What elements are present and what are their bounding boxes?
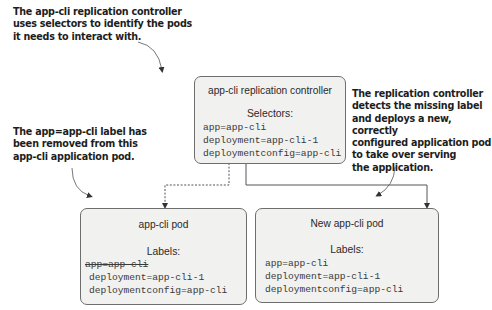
replication-controller-box: app-cli replication controller Selectors… bbox=[194, 76, 346, 164]
new-pod-title: New app-cli pod bbox=[256, 218, 438, 229]
label-line: deploymentconfig=app-cli bbox=[89, 285, 227, 298]
label-line: deployment=app-cli-1 bbox=[89, 272, 204, 285]
old-pod-box: app-cli pod Labels: app=app-cli deployme… bbox=[80, 208, 247, 305]
selector-line: app=app-cli bbox=[203, 122, 266, 135]
callout-arrow-top bbox=[138, 42, 162, 70]
label-line: deployment=app-cli-1 bbox=[265, 271, 380, 284]
old-pod-title: app-cli pod bbox=[81, 219, 246, 230]
label-line: app=app-cli bbox=[265, 258, 328, 271]
old-pod-labels-label: Labels: bbox=[81, 246, 246, 257]
annotation-right: The replication controller detects the m… bbox=[352, 88, 492, 174]
selector-line: deployment=app-cli-1 bbox=[203, 135, 318, 148]
annotation-top-left: The app-cli replication controller uses … bbox=[13, 6, 213, 43]
annotation-middle-left: The app=app-cli label has been removed f… bbox=[13, 126, 183, 163]
selectors-label: Selectors: bbox=[195, 108, 345, 119]
removed-label-line: app=app-cli bbox=[85, 259, 148, 272]
new-pod-labels-label: Labels: bbox=[256, 244, 438, 255]
dashed-connector bbox=[165, 163, 229, 206]
selector-line: deploymentconfig=app-cli bbox=[203, 148, 341, 161]
label-line: deploymentconfig=app-cli bbox=[265, 284, 403, 297]
new-pod-box: New app-cli pod Labels: app=app-cli depl… bbox=[255, 208, 439, 303]
callout-arrow-middle bbox=[72, 168, 90, 196]
controller-title: app-cli replication controller bbox=[195, 85, 345, 96]
